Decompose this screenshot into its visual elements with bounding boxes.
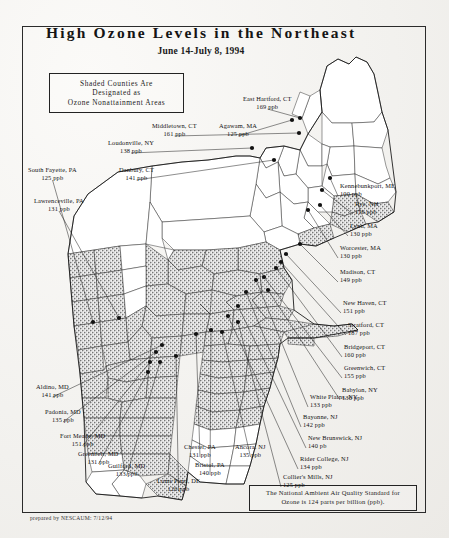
monitor-label-ancora-nj: Ancora, NJ135 ppb [235,443,266,460]
monitor-dot-fort-meade-md [148,360,152,364]
monitor-site-name: South Fayette, PA [28,166,77,174]
monitor-ozone-value: 151 ppb [60,440,105,448]
monitor-ozone-value: 133 ppb [108,470,145,478]
monitor-ozone-value: 100 ppb [340,190,395,198]
monitor-ozone-value: 138 ppb [108,147,154,155]
monitor-dot-madison-ct [298,242,302,246]
monitor-site-name: Madison, CT [340,268,375,276]
monitor-ozone-value: 151 ppb [343,307,387,315]
monitor-ozone-value: 126 ppb [157,485,200,493]
monitor-dot-lynn-ma [318,203,322,207]
monitor-site-name: Bayonne, NJ [303,413,338,421]
monitor-dot-middletown-ct [297,131,301,135]
monitor-label-new-brunswick-nj: New Brunswick, NJ140 pb [308,434,362,451]
monitor-dot-south-fayette-pa [91,320,95,324]
monitor-dot-babylon-ny [266,288,270,292]
monitor-dot-colliers-mills-nj [236,320,240,324]
monitor-ozone-value: 149 ppb [340,276,375,284]
monitor-label-bridgeport-ct: Bridgeport, CT160 ppb [344,343,385,360]
monitor-ozone-value: 141 ppb [36,391,69,399]
monitor-site-name: Greenbelt, MD [78,450,119,458]
monitor-label-kennebunkport-me: Kennebunkport, ME100 ppb [340,182,395,199]
monitor-label-south-fayette-pa: South Fayette, PA125 ppb [28,166,77,183]
monitor-label-greenbelt-md: Greenbelt, MD131 ppb [78,450,119,467]
monitor-site-name: New Brunswick, NJ [308,434,362,442]
monitor-ozone-value: 135 ppb [235,451,266,459]
monitor-label-aldino-md: Aldino, MD141 ppb [36,383,69,400]
monitor-site-name: Middletown, CT [152,122,197,130]
monitor-dot-chester-pa [194,332,198,336]
monitor-ozone-value: 140 pb [308,442,362,450]
monitor-site-name: Rider College, NJ [300,455,349,463]
monitor-label-new-haven-ct: New Haven, CT151 ppb [343,299,387,316]
monitor-dot-bridgeport-ct [274,266,278,270]
monitor-site-name: East Hartford, CT [243,95,292,103]
monitor-label-greenwich-ct: Greenwich, CT155 ppb [344,364,385,381]
monitor-dot-east-hartford-ct [298,116,302,120]
monitor-label-lawrenceville-pa: Lawrenceville, PA131 ppb [34,197,84,214]
monitor-ozone-value: 134 ppb [300,463,349,471]
monitor-site-name: Collier's Mills, NJ [283,473,333,481]
monitor-site-name: Agawam, MA [219,122,257,130]
monitor-dot-greenwich-ct [262,275,266,279]
monitor-site-name: Worcester, MA [340,244,381,252]
monitor-label-rider-college-nj: Rider College, NJ134 ppb [300,455,349,472]
monitor-dot-rider-college-nj [226,314,230,318]
monitor-dot-white-plains-ny [254,278,258,282]
monitor-dot-bristol-pa [209,328,213,332]
monitor-ozone-value: 130 ppb [350,230,378,238]
monitor-site-name: Danbury, CT [119,166,154,174]
monitor-label-lums-pond-de: Lums Pond, DE126 ppb [157,477,200,494]
monitor-ozone-value: 142 ppb [303,421,338,429]
preparer-credit: prepared by NESCAUM: 7/12/94 [30,515,112,521]
monitor-ozone-value: 125 ppb [283,481,333,489]
monitor-dot-danbury-ct [272,158,276,162]
monitor-site-name: Ancora, NJ [235,443,266,451]
monitor-site-name: Bristol, PA [195,461,225,469]
monitor-site-name: Rye, NH [355,200,379,208]
monitor-label-agawam-ma: Agawam, MA125 ppb [219,122,257,139]
monitor-dot-stratford-ct [279,260,283,264]
monitor-label-bayonne-nj: Bayonne, NJ142 ppb [303,413,338,430]
monitor-ozone-value: 131 ppb [34,205,84,213]
monitor-site-name: Loudonville, NY [108,139,154,147]
monitor-site-name: White Plains, NY [310,393,358,401]
monitor-label-middletown-ct: Middletown, CT161 ppb [152,122,197,139]
monitor-label-east-hartford-ct: East Hartford, CT169 ppb [243,95,292,112]
monitor-site-name: Fort Meade, MD [60,432,105,440]
monitor-label-padonia-md: Padonia, MD135 ppb [45,408,81,425]
monitor-site-name: Bridgeport, CT [344,343,385,351]
monitor-dot-kennebunkport-me [328,176,332,180]
monitor-site-name: Padonia, MD [45,408,81,416]
monitor-ozone-value: 131 ppb [78,458,119,466]
monitor-dot-new-haven-ct [284,252,288,256]
monitor-dot-worcester-ma [306,208,310,212]
monitor-label-loudonville-ny: Loudonville, NY138 ppb [108,139,154,156]
monitor-dot-aldino-md [160,343,164,347]
monitor-ozone-value: 125 ppb [219,130,257,138]
monitor-ozone-value: 125 ppb [28,174,77,182]
monitor-label-danbury-ct: Danbury, CT141 ppb [119,166,154,183]
monitor-label-colliers-mills-nj: Collier's Mills, NJ125 ppb [283,473,333,490]
monitor-label-chester-pa: Chester, PA131 ppb [184,443,216,460]
monitor-ozone-value: 169 ppb [243,103,292,111]
monitor-site-name: New Haven, CT [343,299,387,307]
monitor-label-worcester-ma: Worcester, MA130 ppb [340,244,381,261]
monitor-label-bristol-pa: Bristol, PA140 ppb [195,461,225,478]
monitor-dot-lums-pond-de [174,354,178,358]
monitor-dot-guilford-md [158,360,162,364]
monitor-ozone-value: 130 ppb [340,252,381,260]
monitor-ozone-value: 155 ppb [344,372,385,380]
monitor-site-name: Aldino, MD [36,383,69,391]
monitor-dot-agawam-ma [290,118,294,122]
monitor-label-lynn-ma: Lynn, MA130 ppb [350,222,378,239]
monitor-site-name: Lynn, MA [350,222,378,230]
monitor-label-white-plains-ny: White Plains, NY133 ppb [310,393,358,410]
monitor-site-name: Stratford, CT [348,321,384,329]
monitor-dot-new-brunswick-nj [236,304,240,308]
monitor-dot-greenbelt-md [146,370,150,374]
monitor-ozone-value: 135 ppb [45,416,81,424]
monitor-site-name: Lums Pond, DE [157,477,200,485]
monitor-dot-ancora-nj [220,330,224,334]
monitor-ozone-value: 161 ppb [152,130,197,138]
